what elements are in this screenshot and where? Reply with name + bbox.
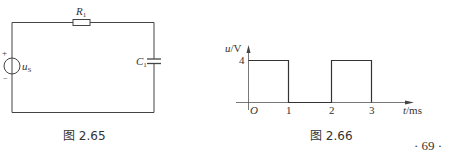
- source-label: uS: [22, 60, 32, 74]
- waveform-chart: [236, 45, 414, 110]
- figure-caption-2-66: 图 2.66: [310, 126, 353, 143]
- y-axis-label: u/V: [225, 42, 242, 54]
- x-tick-3: 3: [369, 104, 375, 116]
- y-tick-4: 4: [239, 54, 245, 66]
- x-tick-1: 1: [286, 104, 292, 116]
- x-axis-label: t/ms: [403, 104, 422, 116]
- resistor-icon: [73, 20, 90, 26]
- square-wave-line: [249, 61, 372, 103]
- source-minus-sign: −: [3, 74, 8, 83]
- x-tick-2: 2: [329, 104, 335, 116]
- y-axis-arrow-icon: [247, 45, 251, 53]
- capacitor-label: C1: [136, 55, 147, 69]
- figure-caption-2-65: 图 2.65: [63, 126, 106, 143]
- origin-label: O: [250, 104, 258, 116]
- resistor-label: R1: [75, 5, 87, 19]
- page-number: · 69 ·: [414, 138, 442, 153]
- source-plus-sign: +: [2, 48, 7, 58]
